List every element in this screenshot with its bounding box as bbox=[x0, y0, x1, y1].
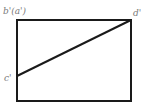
label-c: c' bbox=[4, 74, 12, 83]
label-d: d' bbox=[133, 9, 141, 18]
projection-rectangle bbox=[17, 20, 131, 101]
projection-diagram bbox=[0, 0, 148, 112]
label-b-a: b'(a') bbox=[3, 7, 26, 16]
line-c-d bbox=[17, 20, 131, 76]
